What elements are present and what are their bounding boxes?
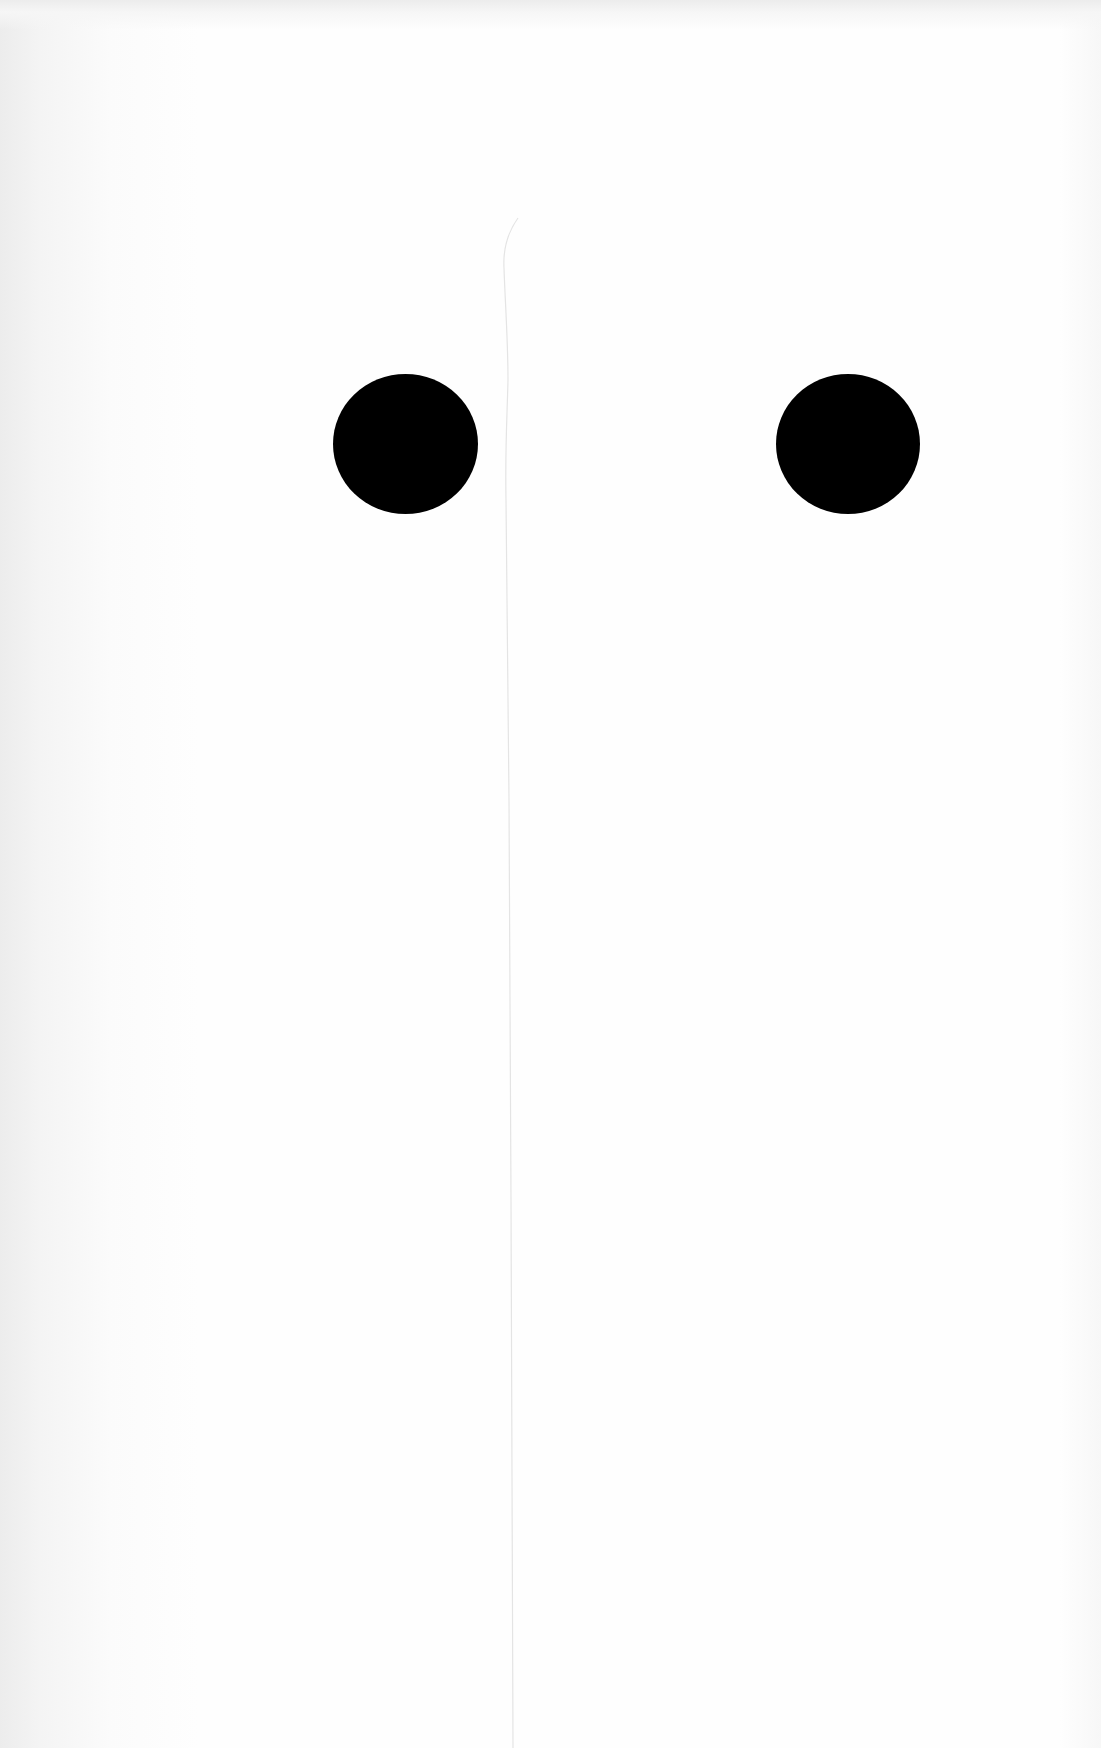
scan-edge-shade	[0, 0, 1101, 30]
scanned-page	[0, 0, 1101, 1748]
right-black-dot	[776, 374, 920, 514]
left-black-dot	[333, 374, 478, 514]
fold-crease-line	[0, 0, 1101, 1748]
